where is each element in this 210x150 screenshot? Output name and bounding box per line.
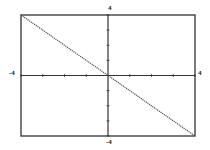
- graph-window: [0, 0, 210, 150]
- y-max-label: 4: [108, 5, 112, 12]
- x-max-label: 4: [198, 70, 202, 77]
- y-min-label: -4: [106, 139, 112, 146]
- x-min-label: -4: [9, 70, 15, 77]
